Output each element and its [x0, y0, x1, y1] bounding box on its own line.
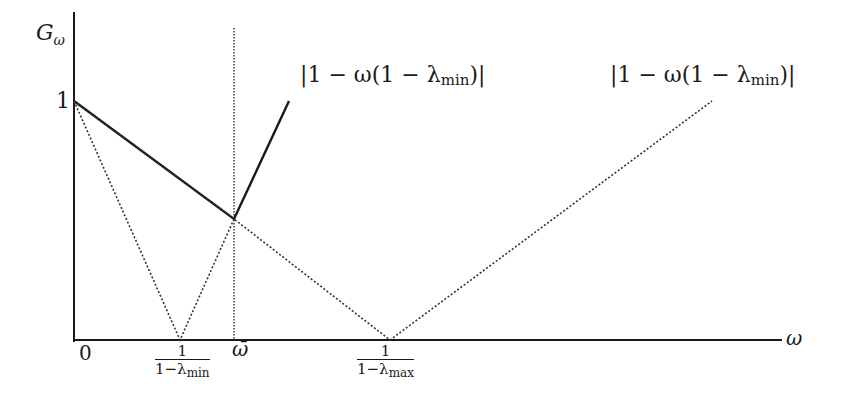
x-axis-label: ω [786, 326, 802, 350]
tick-inv-lambda-max-numerator: 1 [381, 343, 391, 359]
dotted-lambda-max-curve [74, 101, 712, 340]
y-axis-label: Gω [36, 20, 65, 48]
curve-label-prefix: |1 − ω(1 − λ [300, 62, 441, 87]
tick-inv-lambda-min-numerator: 1 [178, 343, 188, 359]
den-prefix: 1−λ [155, 360, 187, 378]
den-sub: max [389, 366, 414, 380]
solid-envelope-curve [74, 101, 289, 219]
tick-omega-bar: ω̄ [232, 337, 248, 361]
y-axis-label-sub: ω [54, 32, 65, 48]
dotted-lambda-min-curve [74, 101, 234, 340]
tick-inv-lambda-max: 1 1−λmax [357, 343, 414, 382]
tick-inv-lambda-min: 1 1−λmin [155, 343, 210, 382]
curve-label-suffix: )| [779, 62, 795, 87]
den-prefix: 1−λ [357, 360, 389, 378]
curve-label-prefix: |1 − ω(1 − λ [610, 62, 751, 87]
origin-label: 0 [79, 341, 92, 365]
diagram-canvas [0, 0, 844, 404]
curve-label-sub: min [441, 71, 470, 89]
curve-label-dotted: |1 − ω(1 − λmin)| [610, 62, 795, 89]
curve-label-suffix: )| [469, 62, 485, 87]
y-axis-label-main: G [36, 20, 54, 45]
curve-label-solid: |1 − ω(1 − λmin)| [300, 62, 485, 89]
curve-label-sub: min [751, 71, 780, 89]
y-tick-one: 1 [56, 88, 70, 113]
tick-inv-lambda-max-denominator: 1−λmax [357, 360, 414, 382]
den-sub: min [187, 366, 210, 380]
tick-inv-lambda-min-denominator: 1−λmin [155, 360, 210, 382]
